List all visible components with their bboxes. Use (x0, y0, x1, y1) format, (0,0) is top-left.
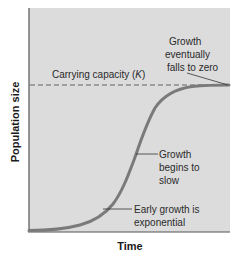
x-axis-title: Time (117, 240, 142, 252)
logistic-growth-diagram: Carrying capacity (K) Growth eventually … (0, 0, 248, 257)
y-axis-title: Population size (9, 82, 21, 163)
carrying-capacity-label: Carrying capacity (K) (52, 69, 145, 80)
